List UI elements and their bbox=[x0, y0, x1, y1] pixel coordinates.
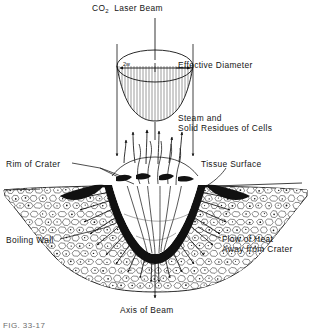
label-co2-suffix: Laser Beam bbox=[114, 3, 163, 13]
label-flow-heat-line1: Flow of Heat bbox=[222, 234, 293, 244]
tissue-surface-line bbox=[215, 183, 302, 186]
label-flow-of-heat: Flow of Heat Away from Crater bbox=[222, 234, 293, 255]
label-tissue-surface: Tissue Surface bbox=[201, 159, 261, 169]
label-rim-of-crater: Rim of Crater bbox=[6, 159, 60, 169]
label-steam-and-residues: Steam and Solid Residues of Cells bbox=[178, 113, 272, 134]
figure-root: CO2 Laser Beam 2w Effective Diameter Ste… bbox=[0, 0, 311, 329]
label-beam-waist: 2w bbox=[123, 59, 130, 69]
steam-arrows bbox=[124, 130, 182, 164]
plume-dome bbox=[112, 157, 198, 176]
label-axis-of-beam: Axis of Beam bbox=[120, 305, 174, 315]
figure-caption: FIG. 33-17 bbox=[3, 321, 45, 328]
label-steam-line2: Solid Residues of Cells bbox=[178, 123, 272, 133]
label-steam-line1: Steam and bbox=[178, 113, 272, 123]
label-boiling-wall: Boiling Wall bbox=[6, 235, 54, 245]
label-effective-diameter: Effective Diameter bbox=[178, 60, 253, 70]
label-flow-heat-line2: Away from Crater bbox=[222, 244, 293, 254]
label-co2-prefix: CO bbox=[92, 3, 105, 13]
label-co2-laser-beam: CO2 Laser Beam bbox=[92, 3, 163, 16]
label-co2-subscript: 2 bbox=[105, 8, 109, 14]
